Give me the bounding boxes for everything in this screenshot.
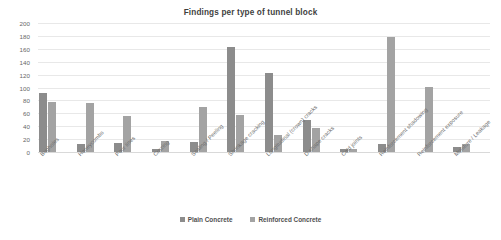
y-axis-tick-label: 20 xyxy=(23,136,30,143)
bar-group xyxy=(377,23,415,152)
bar-group xyxy=(151,23,189,152)
y-axis-tick-label: 100 xyxy=(19,84,30,91)
bar-group xyxy=(113,23,151,152)
y-axis-tick-label: 180 xyxy=(19,32,30,39)
bar xyxy=(227,47,235,152)
chart-legend: Plain ConcreteReinforced Concrete xyxy=(0,216,501,223)
bar-group xyxy=(38,23,76,152)
y-axis-tick-label: 60 xyxy=(23,110,30,117)
y-axis-tick-label: 0 xyxy=(26,149,30,156)
bars-layer xyxy=(38,23,490,152)
legend-item-label: Plain Concrete xyxy=(188,216,233,223)
y-axis-tick-label: 160 xyxy=(19,45,30,52)
bar-group xyxy=(452,23,490,152)
bar-group xyxy=(76,23,114,152)
y-axis-tick-label: 120 xyxy=(19,71,30,78)
y-axis-tick-label: 80 xyxy=(23,97,30,104)
bar-group xyxy=(264,23,302,152)
chart-container: Findings per type of tunnel block 200180… xyxy=(0,0,501,240)
y-axis: 200180160140120100806040200 xyxy=(0,23,34,152)
y-axis-tick-label: 140 xyxy=(19,58,30,65)
bar-group xyxy=(302,23,340,152)
bar xyxy=(265,73,273,152)
y-axis-tick-label: 200 xyxy=(19,20,30,27)
legend-item-label: Reinforced Concrete xyxy=(258,216,321,223)
legend-item[interactable]: Plain Concrete xyxy=(180,216,233,223)
y-axis-tick-label: 40 xyxy=(23,123,30,130)
bar-group xyxy=(226,23,264,152)
x-axis-labels: BugholesHoneycombsPour linesCrazingScali… xyxy=(38,153,490,198)
legend-swatch-icon xyxy=(250,217,255,222)
bar xyxy=(39,93,47,152)
legend-item[interactable]: Reinforced Concrete xyxy=(250,216,321,223)
legend-swatch-icon xyxy=(180,217,185,222)
bar xyxy=(387,37,395,152)
bar-group xyxy=(415,23,453,152)
bar-group xyxy=(339,23,377,152)
chart-title: Findings per type of tunnel block xyxy=(0,8,501,17)
bar-group xyxy=(189,23,227,152)
